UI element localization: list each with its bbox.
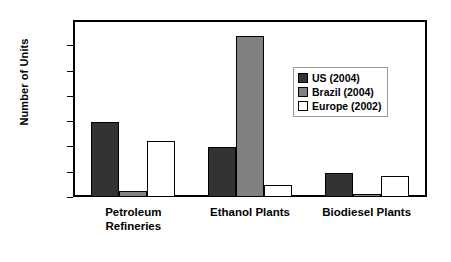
bar-group-petroleum-refineries: [75, 22, 192, 197]
bar-chart: Number of Units 350 300 250 200 150 100 …: [0, 0, 451, 262]
x-label-biodiesel-plants: Biodiesel Plants: [308, 205, 425, 233]
bar-group-ethanol-plants: [192, 22, 309, 197]
bar-us-biodiesel-plants[interactable]: [325, 173, 353, 197]
legend-label: US (2004): [312, 72, 360, 84]
bar-us-ethanol-plants[interactable]: [208, 147, 236, 197]
bar-brazil-petroleum-refineries[interactable]: [119, 191, 147, 198]
chart-legend: US (2004) Brazil (2004) Europe (2002): [293, 67, 388, 117]
x-label-line: Ethanol Plants: [192, 205, 309, 219]
x-axis-labels: Petroleum Refineries Ethanol Plants Biod…: [75, 205, 425, 233]
legend-entry-europe[interactable]: Europe (2002): [298, 99, 381, 113]
legend-swatch-icon: [298, 87, 308, 97]
legend-label: Brazil (2004): [312, 86, 374, 98]
x-label-line: Refineries: [75, 219, 192, 233]
bar-europe-ethanol-plants[interactable]: [264, 185, 292, 198]
x-label-line: Petroleum: [75, 205, 192, 219]
legend-swatch-icon: [298, 101, 308, 111]
bar-europe-biodiesel-plants[interactable]: [381, 176, 409, 197]
bar-brazil-biodiesel-plants[interactable]: [353, 194, 381, 197]
y-tick-mark: [67, 197, 73, 198]
bar-brazil-ethanol-plants[interactable]: [236, 36, 264, 197]
legend-entry-us[interactable]: US (2004): [298, 71, 381, 85]
x-label-petroleum-refineries: Petroleum Refineries: [75, 205, 192, 233]
legend-swatch-icon: [298, 73, 308, 83]
legend-label: Europe (2002): [312, 100, 381, 112]
bar-us-petroleum-refineries[interactable]: [91, 122, 119, 197]
x-label-ethanol-plants: Ethanol Plants: [192, 205, 309, 233]
x-label-line: Biodiesel Plants: [308, 205, 425, 219]
bar-europe-petroleum-refineries[interactable]: [147, 141, 175, 197]
legend-entry-brazil[interactable]: Brazil (2004): [298, 85, 381, 99]
